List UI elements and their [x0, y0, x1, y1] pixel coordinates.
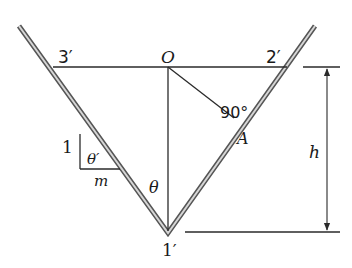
- label-point-1-prime: 1′: [162, 240, 177, 260]
- label-depth-h: h: [309, 142, 320, 162]
- label-slope-run: m: [94, 172, 108, 190]
- v-channel-diagram: 3′ O 2′ 90° A h 1 θ′ m θ 1′: [0, 0, 352, 268]
- label-point-3-prime: 3′: [58, 47, 73, 67]
- label-point-O: O: [161, 47, 175, 67]
- label-angle-theta: θ: [149, 178, 159, 197]
- label-right-angle: 90°: [220, 103, 248, 122]
- label-slope-rise: 1: [62, 137, 73, 157]
- label-angle-theta-prime: θ′: [87, 150, 100, 168]
- label-point-A: A: [235, 129, 249, 148]
- label-point-2-prime: 2′: [266, 47, 281, 67]
